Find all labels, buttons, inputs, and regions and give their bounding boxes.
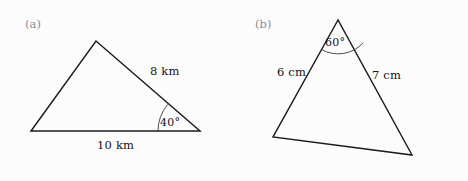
angle-label-60-degrees: 60° <box>325 37 345 48</box>
panel-b: (b) 6 cm 7 cm 60° <box>234 0 468 181</box>
side-label-10km: 10 km <box>97 140 134 152</box>
side-label-6cm: 6 cm <box>277 67 306 79</box>
panel-a: (a) 8 km 10 km 40° <box>0 0 234 181</box>
panel-b-tag: (b) <box>255 19 272 31</box>
side-label-7cm: 7 cm <box>372 70 401 82</box>
angle-label-40-degrees: 40° <box>160 117 180 128</box>
side-label-8km: 8 km <box>150 66 180 78</box>
figure-root: (a) 8 km 10 km 40° (b) 6 cm 7 cm 60° <box>0 0 468 181</box>
panel-a-tag: (a) <box>25 19 41 31</box>
